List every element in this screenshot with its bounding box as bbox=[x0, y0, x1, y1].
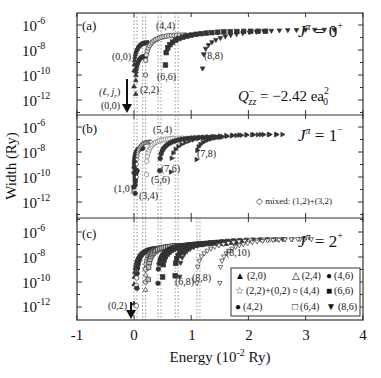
down-arrow-icon bbox=[122, 79, 132, 113]
annotation: (7,8) bbox=[197, 148, 216, 160]
annotation: (3,4) bbox=[139, 190, 158, 202]
annotation: (5,4) bbox=[153, 124, 172, 136]
legend-item: □(6,4) bbox=[292, 301, 319, 313]
annotation: (8,10) bbox=[226, 247, 250, 259]
y-axis-label: Width (Ry) bbox=[3, 132, 20, 200]
panel-label: (a) bbox=[82, 18, 96, 33]
legend-item: ▼(8,6) bbox=[326, 301, 357, 313]
annotation: (7,6) bbox=[161, 163, 180, 175]
legend-item: ■(6,6) bbox=[326, 285, 353, 297]
annotation: (6,6) bbox=[157, 71, 176, 83]
svg-text:10-8: 10-8 bbox=[22, 40, 45, 59]
arrow-label: (0,2) bbox=[108, 300, 127, 312]
legend-item: ●(4,6) bbox=[326, 270, 353, 282]
mixed-note: ◇ mixed: (1,2)+(3,2) bbox=[256, 196, 332, 206]
arrow-label-bottom: (0,0) bbox=[101, 100, 120, 112]
svg-text:2: 2 bbox=[245, 327, 253, 343]
annotation: (8,8) bbox=[192, 272, 211, 284]
panel-b: (b) Jπ = 1− ◇ mixed: (1,2)+(3,2) (1,0) (… bbox=[82, 121, 343, 206]
annotation: (4,4) bbox=[156, 20, 175, 32]
legend-item: △(2,4) bbox=[292, 270, 321, 282]
y-tick-labels: 10-6 10-8 10-10 10-12 10-6 10-8 10-10 10… bbox=[22, 15, 50, 315]
annotation: (1,0) bbox=[114, 183, 133, 195]
annotation: (0,0) bbox=[112, 51, 131, 63]
svg-text:10-12: 10-12 bbox=[22, 90, 50, 109]
svg-text:10-8: 10-8 bbox=[22, 142, 45, 161]
x-axis-label: Energy (10-2 Ry) bbox=[170, 347, 271, 366]
legend: ▲(2,0) △(2,4) ●(4,6) ☆(2,2)+(0,2) ○(4,4)… bbox=[231, 268, 360, 316]
figure: 10-6 10-8 10-10 10-12 10-6 10-8 10-10 10… bbox=[0, 0, 381, 378]
svg-text:10-12: 10-12 bbox=[22, 296, 50, 315]
quadrupole-label: Q−zz = −2.42 ea20 bbox=[238, 85, 329, 107]
legend-item: ○(4,4) bbox=[292, 285, 319, 297]
svg-text:-1: -1 bbox=[71, 327, 84, 343]
svg-text:10-10: 10-10 bbox=[22, 65, 50, 84]
jpi-label: Jπ = 1− bbox=[298, 124, 343, 145]
svg-text:1: 1 bbox=[188, 327, 196, 343]
svg-text:10-6: 10-6 bbox=[22, 15, 45, 34]
panel-label: (c) bbox=[82, 226, 96, 241]
svg-text:0: 0 bbox=[130, 327, 138, 343]
annotation: (8,8) bbox=[204, 50, 223, 62]
svg-text:10-10: 10-10 bbox=[22, 167, 50, 186]
annotation: (5,6) bbox=[151, 174, 170, 186]
x-tick-labels: -1 0 1 2 3 4 bbox=[71, 327, 368, 343]
jpi-label: Jπ = 2+ bbox=[298, 230, 343, 251]
svg-text:10-6: 10-6 bbox=[22, 117, 45, 136]
svg-text:10-6: 10-6 bbox=[22, 222, 45, 241]
legend-item: ▲(2,0) bbox=[235, 270, 266, 282]
chart-canvas: 10-6 10-8 10-10 10-12 10-6 10-8 10-10 10… bbox=[0, 0, 381, 378]
svg-text:10-8: 10-8 bbox=[22, 247, 45, 266]
jpi-label: Jπ = 0+ bbox=[298, 20, 343, 41]
legend-item: ●(4,2) bbox=[235, 301, 262, 313]
arrow-label-top: (ℓ, jr) bbox=[99, 86, 120, 100]
svg-text:3: 3 bbox=[302, 327, 310, 343]
svg-text:10-12: 10-12 bbox=[22, 192, 50, 211]
legend-item: ☆(2,2)+(0,2) bbox=[235, 285, 290, 297]
svg-text:4: 4 bbox=[359, 327, 367, 343]
panel-label: (b) bbox=[82, 121, 97, 136]
svg-text:10-10: 10-10 bbox=[22, 272, 50, 291]
annotation: (2,2) bbox=[140, 84, 159, 96]
